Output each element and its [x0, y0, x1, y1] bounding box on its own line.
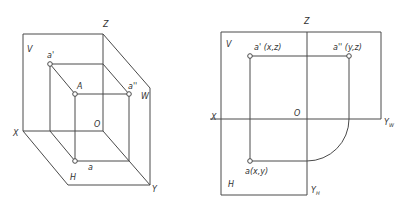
- label-a-double-prime: a'': [128, 82, 137, 91]
- label-z: Z: [102, 20, 109, 29]
- transfer-arc: [307, 119, 349, 161]
- label-o: O: [294, 109, 300, 118]
- label-a-prime: a' (x,z): [254, 43, 281, 52]
- label-h: H: [70, 173, 76, 182]
- label-y-h: YH: [311, 186, 320, 196]
- label-a-prime: a': [47, 51, 54, 60]
- label-a-double-prime: a'' (y,z): [333, 43, 362, 52]
- label-a: a: [88, 163, 93, 172]
- y-axis: [103, 131, 150, 185]
- point-a-prime: [248, 54, 253, 59]
- z-to-adoubleprime-line: [103, 64, 129, 94]
- point-A: [73, 92, 78, 97]
- label-y-w: YW: [384, 118, 395, 128]
- projection-diagram: Z V a' A a'' W O X a H Y Z V a' (x,z) a: [0, 0, 403, 210]
- label-v: V: [27, 45, 33, 54]
- h-plane: [23, 131, 150, 185]
- label-A: A: [76, 82, 82, 91]
- label-x: X: [210, 113, 217, 122]
- point-a: [73, 159, 78, 164]
- label-h: H: [228, 180, 234, 189]
- point-a: [248, 159, 253, 164]
- label-z: Z: [303, 17, 310, 26]
- aprime-to-A-line: [50, 64, 75, 94]
- label-v: V: [226, 40, 232, 49]
- right-figure-orthographic: Z V a' (x,z) a'' (y,z) X O YW a(x,y) H Y…: [210, 17, 395, 196]
- point-a-prime: [48, 62, 53, 67]
- point-a-double-prime: [127, 92, 132, 97]
- left-figure-3d: Z V a' A a'' W O X a H Y: [12, 20, 158, 194]
- point-a-double-prime: [347, 54, 352, 59]
- label-w: W: [141, 92, 150, 101]
- w-plane: [103, 34, 150, 185]
- label-a: a(x,y): [245, 167, 268, 176]
- x-to-a-line: [50, 131, 75, 161]
- label-o: O: [94, 120, 100, 129]
- label-y: Y: [152, 185, 158, 194]
- label-x: X: [12, 129, 19, 138]
- v-plane: [23, 34, 103, 131]
